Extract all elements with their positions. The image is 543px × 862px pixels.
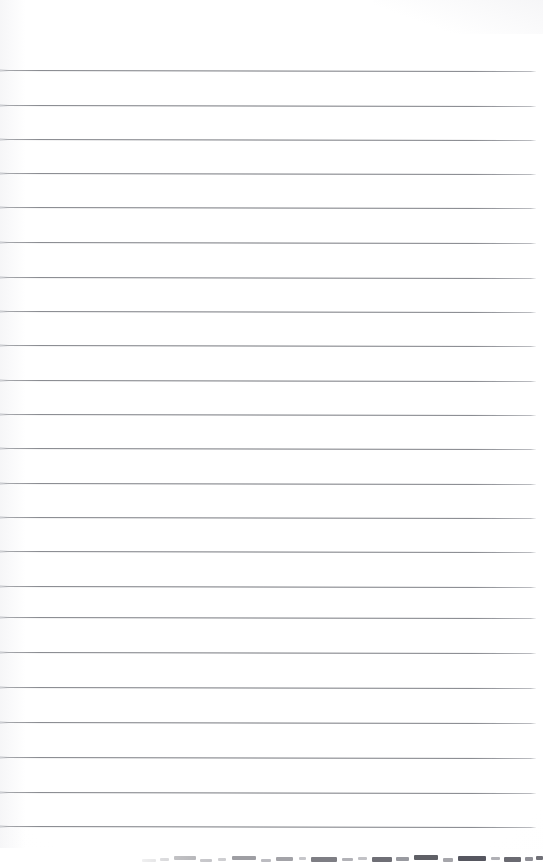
artifact-dash <box>372 857 392 862</box>
rule-line <box>0 652 536 654</box>
artifact-dash <box>160 858 169 861</box>
rule-line <box>0 586 536 588</box>
rule-line <box>0 139 536 141</box>
rule-line <box>0 207 536 209</box>
rule-line <box>0 173 536 175</box>
rule-line <box>0 757 536 759</box>
rule-line <box>0 722 536 724</box>
ruled-lines-group <box>0 0 543 862</box>
artifact-dash <box>174 856 196 860</box>
rule-line <box>0 277 536 279</box>
artifact-dash <box>232 856 256 860</box>
artifact-dash <box>218 858 226 861</box>
artifact-dash <box>458 856 486 861</box>
rule-line <box>0 311 536 313</box>
artifact-dash <box>276 857 293 861</box>
artifact-dash <box>358 857 367 860</box>
artifact-dash <box>491 857 500 860</box>
artifact-dash <box>443 858 453 862</box>
rule-line <box>0 517 536 519</box>
rule-line <box>0 551 536 553</box>
artifact-dash <box>504 857 521 862</box>
rule-line <box>0 105 536 107</box>
rule-line <box>0 687 536 689</box>
rule-line <box>0 242 536 244</box>
rule-line <box>0 617 536 619</box>
scan-noise-left-edge <box>0 0 26 862</box>
artifact-dash <box>536 856 543 860</box>
rule-line <box>0 414 536 416</box>
artifact-dash <box>396 857 409 861</box>
scan-noise-top-right <box>373 0 543 34</box>
artifact-dash <box>299 857 306 860</box>
rule-line <box>0 792 536 794</box>
rule-line <box>0 448 536 450</box>
rule-line <box>0 70 536 72</box>
artifact-dash <box>525 857 533 861</box>
artifact-dash <box>342 858 353 861</box>
artifact-left-fade <box>0 848 543 862</box>
artifact-dash <box>414 855 438 860</box>
artifact-dash <box>311 857 337 862</box>
rule-line <box>0 380 536 382</box>
top-margin-blank-area <box>0 0 543 70</box>
rule-line <box>0 826 536 828</box>
rule-line <box>0 483 536 485</box>
scanner-edge-dash-band <box>0 848 543 862</box>
rule-line <box>0 345 536 347</box>
scanned-page <box>0 0 543 862</box>
paper-texture <box>0 0 543 862</box>
